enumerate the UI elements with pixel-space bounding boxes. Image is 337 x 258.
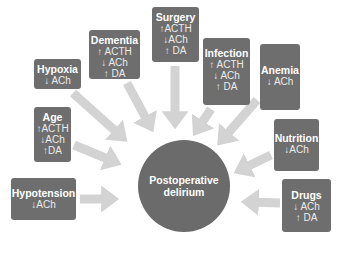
factor-effect: ↓ACh: [34, 134, 71, 145]
factor-effect: ↓ACh: [152, 34, 199, 45]
factor-age: Age ↑ACTH ↓ACh ↑DA: [34, 107, 71, 162]
arrow-drugs: [248, 202, 280, 203]
factor-dementia: Dementia ↑ ACTH ↓ ACh ↑ DA: [89, 30, 140, 79]
factor-drugs: Drugs ↓ ACh ↑ DA: [282, 179, 331, 232]
postoperative-delirium-node: Postoperative delirium: [138, 140, 230, 232]
factor-infection: Infection ↑ ACTH ↓ ACh ↑ DA: [203, 38, 250, 105]
factor-effect: ↑DA: [34, 145, 71, 156]
center-label-line2: delirium: [164, 186, 205, 198]
arrow-nutrition: [240, 155, 271, 170]
factor-effect: ↑ DA: [152, 45, 199, 56]
factor-hypoxia: Hypoxia ↓ ACh: [34, 59, 81, 89]
factor-effect: ↑ DA: [203, 81, 250, 92]
factor-effect: ↓ ACh: [89, 57, 140, 68]
factor-effect: ↑ DA: [282, 212, 331, 223]
factor-title: Drugs: [282, 189, 331, 201]
factor-effect: ↑ DA: [89, 68, 140, 79]
factor-effect: ↓ ACh: [203, 70, 250, 81]
factor-effect: ↓ ACh: [260, 76, 300, 87]
center-label-line1: Postoperative: [149, 174, 218, 186]
factor-effect: ↓ ACh: [282, 201, 331, 212]
factor-title: Nutrition: [274, 132, 319, 144]
factor-effect: ↑ACTH: [34, 123, 71, 134]
factor-title: Infection: [203, 47, 250, 59]
factor-title: Hypotension: [11, 187, 76, 199]
factor-effect: ↓ACh: [11, 199, 76, 210]
arrow-hypoxia: [73, 93, 122, 137]
arrow-age: [74, 145, 115, 162]
factor-title: Anemia: [260, 64, 300, 76]
factor-effect: ↑ ACTH: [89, 46, 140, 57]
arrow-infection: [197, 109, 211, 130]
factor-hypotension: Hypotension ↓ACh: [11, 178, 76, 220]
factor-title: Age: [34, 111, 71, 123]
factor-effect: ↑ ACTH: [203, 59, 250, 70]
factor-title: Hypoxia: [34, 63, 81, 75]
factor-nutrition: Nutrition ↓ACh: [274, 119, 319, 171]
factor-effect: ↓ ACh: [34, 75, 81, 86]
factor-effect: ↓ACh: [274, 144, 319, 155]
factor-title: Surgery: [152, 11, 199, 23]
arrow-dementia: [127, 83, 150, 126]
factor-surgery: Surgery ↑ACTH ↓ACh ↑ DA: [152, 7, 199, 62]
factor-effect: ↑ACTH: [152, 23, 199, 34]
arrow-anemia: [222, 100, 257, 140]
factor-title: Dementia: [89, 34, 140, 46]
factor-anemia: Anemia ↓ ACh: [260, 44, 300, 110]
